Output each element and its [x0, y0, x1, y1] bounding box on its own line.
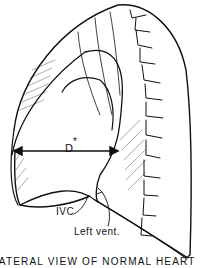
diameter-letter: D: [65, 142, 73, 154]
diameter-label: D*: [65, 138, 77, 154]
thorax-outline: [14, 5, 191, 258]
diameter-asterisk: *: [73, 136, 77, 147]
ivc-label: IVC: [56, 206, 74, 217]
heart-outline: [12, 50, 122, 202]
left-ventricle-label: Left vent.: [74, 226, 120, 237]
figure-caption: LATERAL VIEW OF NORMAL HEART: [0, 256, 196, 267]
